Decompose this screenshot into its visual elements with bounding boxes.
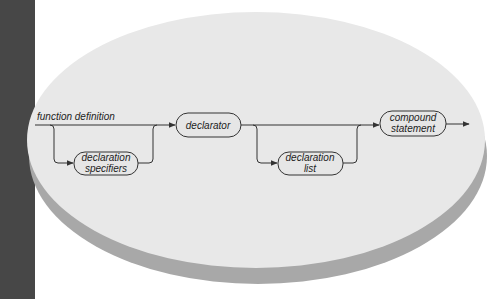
node-declarator[interactable]: declarator xyxy=(176,113,241,137)
node-declaration-list[interactable]: declaration list xyxy=(278,152,343,175)
syntax-diagram: function definition declaration specifie… xyxy=(0,0,504,299)
diagram-title: function definition xyxy=(37,111,115,122)
node-label-line-1: declaration xyxy=(286,152,335,163)
node-declaration-specifiers[interactable]: declaration specifiers xyxy=(74,152,138,175)
ellipse-face xyxy=(27,12,485,268)
node-label-line-2: list xyxy=(304,163,317,174)
node-label-line-1: declaration xyxy=(82,152,131,163)
node-label-line-1: declarator xyxy=(186,120,231,131)
node-compound-statement[interactable]: compound statement xyxy=(380,111,446,136)
node-label-line-2: specifiers xyxy=(85,163,127,174)
node-label-line-2: statement xyxy=(391,123,436,134)
node-label-line-1: compound xyxy=(390,112,437,123)
